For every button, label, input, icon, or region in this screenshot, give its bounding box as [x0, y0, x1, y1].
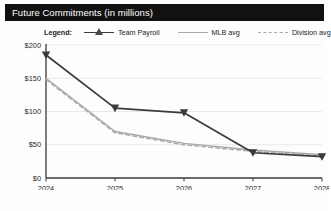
page-title: Future Commitments (in millions) [12, 7, 153, 18]
x-tick-label: 2024 [38, 184, 54, 191]
x-axis-tick-labels: 20242025202620272028 [38, 184, 329, 191]
y-tick-label: $50 [29, 140, 41, 149]
line-chart-svg: $0$50$100$150$200 20242025202620272028 [0, 38, 329, 190]
x-tick-label: 2028 [314, 184, 329, 191]
x-tick-label: 2027 [245, 184, 261, 191]
gridlines [46, 45, 322, 145]
legend-label-mlb-avg: MLB avg [212, 28, 240, 37]
chart-title-bar: Future Commitments (in millions) [5, 4, 324, 21]
legend-label-team-payroll: Team Payroll [118, 28, 160, 37]
series-line-team-payroll [46, 55, 322, 157]
chart-legend: Legend: Team Payroll MLB avg Division av… [44, 25, 331, 39]
legend-title: Legend: [44, 28, 72, 37]
team-payroll-marker-icon [84, 28, 114, 37]
x-tick-label: 2026 [176, 184, 192, 191]
x-tick-label: 2025 [107, 184, 123, 191]
y-tick-label: $200 [25, 41, 41, 50]
mlb-avg-line-icon [178, 28, 208, 37]
legend-item-division-avg[interactable]: Division avg [258, 28, 331, 37]
legend-label-division-avg: Division avg [292, 28, 331, 37]
division-avg-dashed-line-icon [258, 28, 288, 37]
legend-item-mlb-avg[interactable]: MLB avg [178, 28, 240, 37]
y-tick-label: $100 [25, 107, 41, 116]
y-axis-tick-labels: $0$50$100$150$200 [25, 41, 41, 183]
y-tick-label: $0 [33, 174, 41, 183]
y-tick-label: $150 [25, 74, 41, 83]
data-series-layer [42, 51, 326, 160]
legend-item-team-payroll[interactable]: Team Payroll [84, 28, 160, 37]
plot-area: $0$50$100$150$200 20242025202620272028 [0, 38, 329, 190]
